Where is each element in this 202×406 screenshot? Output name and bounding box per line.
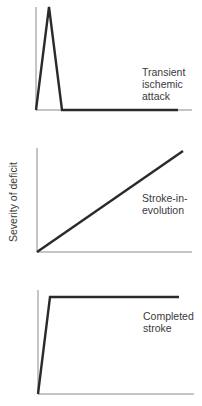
label-line: attack bbox=[142, 90, 185, 102]
label-line: ischemic bbox=[142, 78, 185, 90]
evolution-label: Stroke-in- evolution bbox=[142, 192, 188, 216]
tia-label: Transient ischemic attack bbox=[142, 66, 185, 102]
panel-completed-stroke bbox=[38, 290, 194, 394]
label-line: Completed bbox=[143, 310, 194, 322]
label-line: Stroke-in- bbox=[142, 192, 188, 204]
label-line: Transient bbox=[142, 66, 185, 78]
y-axis-label: Severity of deficit bbox=[7, 162, 19, 242]
label-line: stroke bbox=[143, 322, 194, 334]
label-line: evolution bbox=[142, 204, 188, 216]
completed-label: Completed stroke bbox=[143, 310, 194, 334]
